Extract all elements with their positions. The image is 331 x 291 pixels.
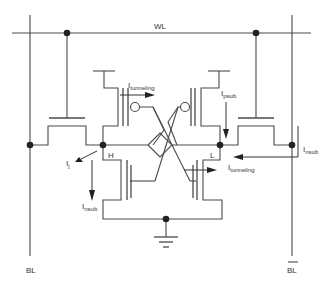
node-high-label: H [108,151,114,160]
wordline-label: WL [154,22,167,31]
svg-text:Itunneling: Itunneling [128,81,155,91]
wl-node-left [64,30,71,37]
current-nsub-right: Insub [233,126,319,160]
bitline-left-node [27,142,34,149]
svg-text:Insub: Insub [303,145,319,155]
wl-node-right [253,30,260,37]
bitline-label: BL [26,266,36,275]
access-transistor-left [30,118,103,145]
svg-text:Insub: Insub [82,202,98,212]
access-transistor-right [220,118,292,145]
ground-icon [154,219,178,247]
svg-text:Ij: Ij [66,159,70,169]
node-low-label: L [210,151,215,160]
svg-text:Itunneling: Itunneling [228,163,255,173]
bitline-bar-label-group: BL [287,262,298,275]
current-psub: Ipsub [221,89,237,139]
ground-node [163,216,170,223]
current-tunneling-top: Itunneling [120,81,155,98]
bitline-bar-label: BL [287,266,297,275]
node-high [100,142,107,149]
node-low [217,142,224,149]
current-nsub-left: Insub [82,160,98,212]
current-tunneling-bottom: Itunneling [184,163,255,173]
sram-cell-diagram: WL BL BL [0,0,331,291]
svg-text:Ipsub: Ipsub [221,89,237,99]
bitline-right-node [289,142,296,149]
